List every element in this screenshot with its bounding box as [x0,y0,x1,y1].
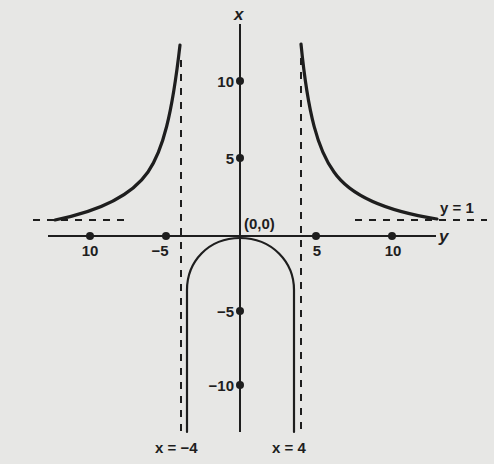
tick-v-neg5 [236,307,244,315]
origin-label: (0,0) [244,215,275,232]
tick-label-h-10: 10 [385,242,402,259]
horizontal-axis-label: y [438,227,450,246]
curve-upper-right [301,44,437,219]
tick-h-5 [312,232,320,240]
tick-v-5 [236,154,244,162]
tick-v-neg10 [236,381,244,389]
vertical-axis-label: x [233,5,245,24]
tick-h-10 [388,232,396,240]
asymptote-y1-label: y = 1 [440,199,474,216]
tick-label-h-neg5: −5 [151,242,168,259]
tick-h-neg5 [162,232,170,240]
tick-label-v-neg10: −10 [209,377,234,394]
curve-upper-left [55,45,180,220]
asymptote-xpos4-label: x = 4 [272,439,306,456]
asymptotes [33,58,487,433]
tick-label-h-5: 5 [313,242,321,259]
chart-canvas: x y (0,0) 10 5 −5 −10 10 −5 5 10 y = 1 x… [0,0,494,464]
tick-label-v-neg5: −5 [217,303,234,320]
tick-v-10 [236,77,244,85]
tick-label-h-neg10: 10 [82,242,99,259]
asymptote-xneg4-label: x = −4 [155,439,198,456]
curves [55,44,437,432]
tick-label-v-10: 10 [217,73,234,90]
tick-label-v-5: 5 [226,150,234,167]
axes [48,24,436,432]
tick-h-neg10 [86,232,94,240]
